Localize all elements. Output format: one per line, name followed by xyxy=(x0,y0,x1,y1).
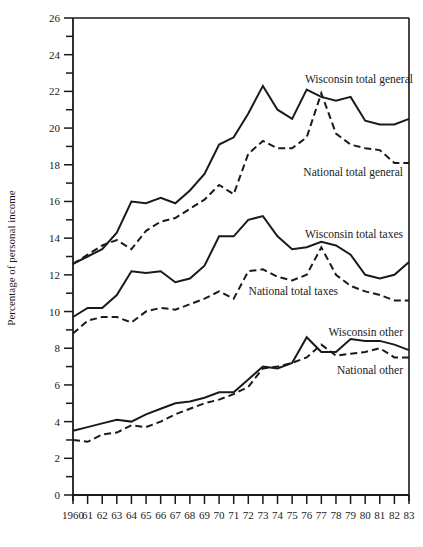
x-tick-label: 68 xyxy=(184,509,196,521)
y-tick-label: 10 xyxy=(49,306,61,318)
national-other-line xyxy=(73,345,409,442)
x-tick-label: 77 xyxy=(316,509,328,521)
x-tick-label: 83 xyxy=(404,509,416,521)
wisconsin-total-general-label: Wisconsin total general xyxy=(305,73,413,86)
x-tick-label: 79 xyxy=(345,509,357,521)
x-tick-label: 74 xyxy=(272,509,284,521)
y-axis-title: Percentage of personal income xyxy=(5,190,17,325)
wisconsin-other-label: Wisconsin other xyxy=(328,326,403,338)
y-tick-label: 12 xyxy=(49,269,60,281)
x-tick-label: 66 xyxy=(155,509,167,521)
x-tick-label: 65 xyxy=(141,509,153,521)
x-tick-label: 62 xyxy=(97,509,108,521)
x-tick-label: 63 xyxy=(111,509,123,521)
x-tick-label: 70 xyxy=(214,509,226,521)
y-tick-label: 26 xyxy=(49,12,61,24)
x-tick-label: 69 xyxy=(199,509,211,521)
y-tick-label: 8 xyxy=(55,342,61,354)
x-tick-label: 73 xyxy=(257,509,269,521)
national-total-taxes-label: National total taxes xyxy=(249,285,339,297)
y-tick-label: 0 xyxy=(55,489,61,501)
x-tick-label: 76 xyxy=(301,509,313,521)
x-tick-label: 72 xyxy=(243,509,254,521)
wisconsin-total-taxes-label: Wisconsin total taxes xyxy=(305,228,403,240)
y-tick-label: 22 xyxy=(49,85,60,97)
national-total-general-label: National total general xyxy=(303,166,403,179)
x-tick-label: 78 xyxy=(330,509,342,521)
y-tick-label: 18 xyxy=(49,159,61,171)
y-tick-label: 4 xyxy=(55,416,61,428)
y-tick-label: 16 xyxy=(49,195,61,207)
national-other-label: National other xyxy=(337,364,403,376)
y-tick-label: 24 xyxy=(49,49,61,61)
wisconsin-other-line xyxy=(73,337,409,431)
x-tick-label: 75 xyxy=(287,509,299,521)
x-axis: 1960616263646566676869707172737475767778… xyxy=(62,495,415,521)
x-tick-label: 61 xyxy=(82,509,93,521)
y-tick-label: 20 xyxy=(49,122,61,134)
y-axis: 02468101214161820222426 xyxy=(49,12,73,501)
x-tick-label: 81 xyxy=(374,509,385,521)
series-lines xyxy=(73,86,409,442)
line-chart: 02468101214161820222426 1960616263646566… xyxy=(0,0,423,547)
plot-frame xyxy=(73,18,409,501)
y-tick-label: 2 xyxy=(55,452,61,464)
x-tick-label: 82 xyxy=(389,509,400,521)
x-tick-label: 64 xyxy=(126,509,138,521)
national-total-taxes-line xyxy=(73,247,409,333)
x-tick-label: 67 xyxy=(170,509,182,521)
x-tick-label: 80 xyxy=(360,509,372,521)
x-tick-label: 71 xyxy=(228,509,239,521)
y-tick-label: 14 xyxy=(49,232,61,244)
y-tick-label: 6 xyxy=(55,379,61,391)
